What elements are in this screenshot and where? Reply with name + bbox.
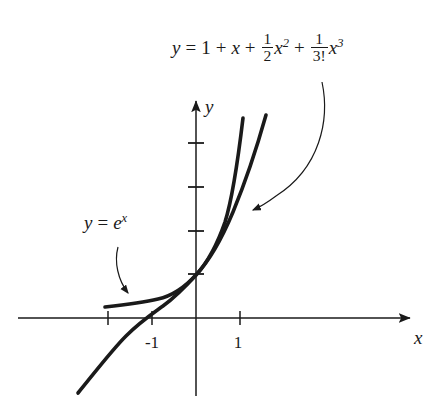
exponential-curve bbox=[105, 115, 266, 307]
taylor-polynomial-curve bbox=[78, 118, 243, 393]
exponential-annotation-arrow bbox=[116, 247, 128, 293]
taylor-annotation-arrow bbox=[253, 82, 325, 210]
plot-svg bbox=[0, 0, 442, 416]
figure-container: y=1+x+12x2+13!x3 y=ex y x -1 1 bbox=[0, 0, 442, 416]
